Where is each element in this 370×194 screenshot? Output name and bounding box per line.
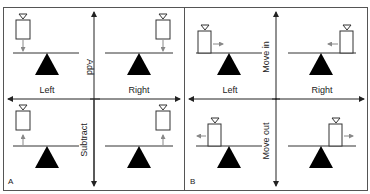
weight-block — [198, 31, 211, 53]
axis-label-left-b: Left — [222, 85, 238, 95]
panel-b: Move in Move out Left Right B — [189, 12, 364, 186]
fulcrum-icon — [127, 146, 151, 168]
axis-label-right-b: Right — [311, 85, 333, 95]
axis-label-subtract: Subtract — [79, 123, 89, 157]
scale-move-out-right — [288, 118, 356, 168]
scale-add-left — [13, 14, 79, 75]
fulcrum-icon — [35, 53, 59, 75]
scale-move-in-left — [196, 25, 262, 75]
weight-block — [16, 111, 30, 130]
scale-move-out-left — [196, 118, 262, 168]
weight-hook-icon — [159, 14, 167, 19]
fulcrum-icon — [127, 53, 151, 75]
weight-hook-icon — [159, 105, 167, 110]
axis-label-left-a: Left — [39, 85, 55, 95]
weight-hook-icon — [343, 25, 351, 30]
fulcrum-icon — [309, 53, 333, 75]
axis-label-add: Add — [85, 59, 95, 75]
panel-a: Add Subtract Left Right A — [8, 12, 180, 186]
scale-subtract-left — [13, 105, 79, 168]
weight-hook-icon — [201, 25, 209, 30]
panel-label-b: B — [190, 177, 195, 186]
weight-hook-icon — [211, 118, 219, 123]
fulcrum-icon — [217, 146, 241, 168]
weight-hook-icon — [19, 14, 27, 19]
panel-label-a: A — [8, 177, 14, 186]
weight-block — [16, 20, 30, 39]
axis-label-right-a: Right — [128, 85, 150, 95]
axis-label-move-in: Move in — [261, 41, 271, 73]
weight-block — [208, 124, 221, 146]
balance-beam-diagram: Add Subtract Left Right A — [0, 0, 370, 194]
weight-block — [329, 124, 342, 146]
axis-label-move-out: Move out — [261, 122, 271, 160]
weight-hook-icon — [332, 118, 340, 123]
scale-add-right — [105, 14, 173, 75]
scale-subtract-right — [105, 105, 173, 168]
weight-block — [156, 20, 170, 39]
weight-block — [340, 31, 353, 53]
fulcrum-icon — [35, 146, 59, 168]
weight-hook-icon — [19, 105, 27, 110]
fulcrum-icon — [217, 53, 241, 75]
scale-move-in-right — [288, 25, 356, 75]
fulcrum-icon — [309, 146, 333, 168]
weight-block — [156, 111, 170, 130]
